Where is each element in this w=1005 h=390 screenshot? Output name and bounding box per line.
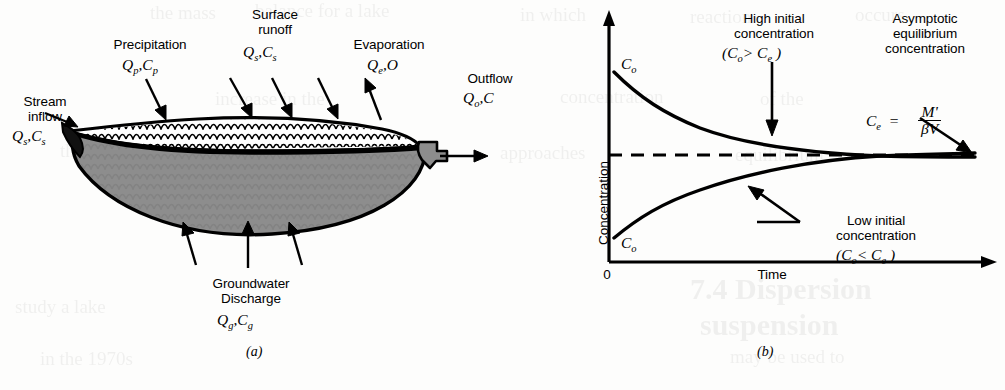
x-axis-label: Time: [742, 268, 802, 283]
equilibrium-equation-fraction: M' βV: [918, 104, 941, 138]
y-axis-arrowhead: [603, 10, 615, 26]
c0-lower-label: Co: [621, 234, 637, 254]
high-initial-label-line2: concentration: [692, 27, 856, 42]
c0-upper-label: Co: [621, 55, 637, 75]
low-initial-label-line1: Low initial: [806, 214, 946, 229]
arrow-to-low-curve: [748, 186, 800, 222]
high-initial-label-line1: High initial: [692, 12, 856, 27]
high-initial-condition: (Co> Ce ): [722, 44, 781, 64]
asymptotic-label-line3: concentration: [845, 42, 1005, 57]
y-axis-label: Concentration: [596, 161, 611, 245]
concentration-chart-svg: [0, 0, 1005, 390]
equation-denominator: βV: [918, 121, 941, 137]
low-initial-condition: (Co< Ce ): [836, 246, 895, 266]
asymptotic-label-line1: Asymptotic: [845, 12, 1005, 27]
asymptotic-label-line2: equilibrium: [845, 27, 1005, 42]
equilibrium-equation-lhs: Ce =: [866, 112, 899, 132]
panel-b-caption: (b): [757, 344, 773, 360]
x-axis-arrowhead: [981, 256, 997, 268]
arrow-to-high-curve: [766, 62, 778, 136]
low-initial-label-line2: concentration: [806, 229, 946, 244]
equation-numerator: M': [918, 104, 941, 121]
chart-annotation-arrows: [748, 62, 972, 222]
figure-container: the mass balance for a lake in which rea…: [0, 0, 1005, 390]
x-axis-origin-label: 0: [596, 268, 618, 283]
